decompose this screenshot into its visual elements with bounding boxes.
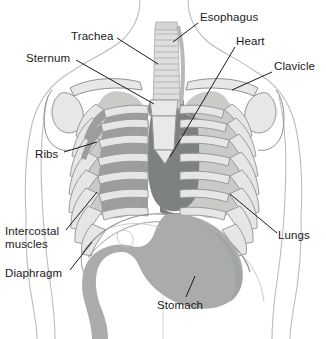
gallbladder-outline bbox=[117, 230, 133, 246]
label-diaphragm: Diaphragm bbox=[5, 267, 62, 280]
armpit-right bbox=[272, 96, 286, 339]
manubrium bbox=[150, 100, 178, 116]
anatomy-figure bbox=[0, 0, 326, 339]
liver-outline bbox=[110, 224, 160, 229]
armpit-left bbox=[41, 96, 55, 339]
label-ribs: Ribs bbox=[35, 148, 58, 161]
clavicle-left bbox=[70, 79, 142, 96]
label-sternum: Sternum bbox=[26, 52, 70, 65]
label-trachea: Trachea bbox=[71, 30, 113, 43]
label-clavicle: Clavicle bbox=[274, 60, 315, 73]
clavicle-right bbox=[186, 79, 258, 96]
anatomy-diagram-canvas: Esophagus Trachea Heart Sternum Clavicle… bbox=[0, 0, 326, 339]
trachea-larynx bbox=[155, 22, 178, 30]
label-esophagus: Esophagus bbox=[200, 11, 258, 24]
label-lungs: Lungs bbox=[278, 229, 310, 242]
sternum-body bbox=[152, 116, 176, 150]
leader-trachea bbox=[117, 38, 158, 64]
label-heart: Heart bbox=[236, 35, 265, 48]
label-intercostal-muscles: Intercostal muscles bbox=[5, 225, 59, 250]
label-stomach: Stomach bbox=[157, 299, 203, 312]
